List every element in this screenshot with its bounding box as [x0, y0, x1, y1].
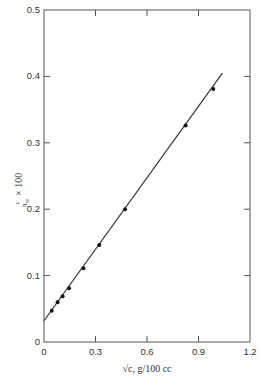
y-tick-label: 0.4	[27, 70, 40, 81]
y-tick-label: 0.2	[27, 203, 40, 214]
y-tick-label: 0.5	[27, 4, 40, 15]
x-tick-label: 0	[41, 346, 46, 357]
x-tick-label: 1.2	[243, 346, 256, 357]
data-point	[81, 266, 85, 270]
data-point	[184, 124, 188, 128]
data-point	[97, 243, 101, 247]
x-tick-label: 0.9	[192, 346, 205, 357]
data-point	[123, 207, 127, 211]
intrinsic-viscosity-plot: 00.30.60.91.2 00.10.20.30.40.5 √c, g/100…	[0, 0, 262, 377]
data-point	[50, 309, 54, 313]
data-point	[56, 300, 60, 304]
plot-frame	[44, 10, 250, 342]
svg-text:cηsp× 100: cηsp× 100	[13, 173, 29, 207]
y-tick-label: 0.1	[27, 270, 40, 281]
y-tick-labels: 00.10.20.30.40.5	[27, 4, 40, 347]
y-tick-label: 0.3	[27, 137, 40, 148]
y-tick-label: 0	[35, 336, 40, 347]
data-point	[61, 294, 65, 298]
data-point	[67, 286, 71, 290]
x-tick-label: 0.3	[89, 346, 102, 357]
x-axis-label: √c, g/100 cc	[122, 363, 172, 374]
axis-ticks	[44, 10, 250, 342]
data-point	[211, 87, 215, 91]
x-tick-labels: 00.30.60.91.2	[41, 346, 256, 357]
fit-line	[44, 73, 222, 321]
y-axis-label: cηsp× 100	[13, 173, 29, 207]
x-tick-label: 0.6	[140, 346, 153, 357]
